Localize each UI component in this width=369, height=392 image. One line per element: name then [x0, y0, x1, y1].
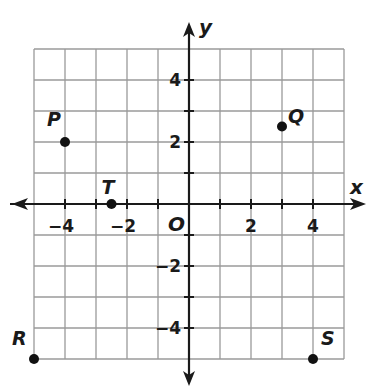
- y-tick-label: −4: [155, 318, 181, 338]
- point-q: Q: [277, 105, 304, 132]
- point-marker: [107, 199, 117, 209]
- x-axis-label: x: [349, 175, 364, 199]
- x-tick-label: −4: [48, 216, 74, 236]
- x-tick-label: 4: [307, 216, 319, 236]
- point-marker: [277, 122, 287, 132]
- point-r: R: [12, 327, 39, 364]
- point-marker: [29, 354, 39, 364]
- y-tick-label: 4: [169, 70, 181, 90]
- point-label: R: [12, 327, 27, 349]
- point-label: P: [47, 108, 61, 130]
- y-tick-label: 2: [169, 132, 181, 152]
- y-axis-label: y: [199, 15, 213, 39]
- x-tick-label: 2: [245, 216, 257, 236]
- coordinate-plane: −4−22442−2−4 x y O PQTRS: [0, 0, 369, 392]
- point-marker: [308, 354, 318, 364]
- point-p: P: [47, 108, 70, 147]
- y-tick-label: −2: [155, 256, 181, 276]
- point-label: Q: [288, 105, 304, 127]
- point-label: T: [102, 176, 117, 198]
- point-label: S: [321, 327, 335, 349]
- x-tick-label: −2: [110, 216, 136, 236]
- origin-label: O: [168, 212, 185, 236]
- point-marker: [60, 137, 70, 147]
